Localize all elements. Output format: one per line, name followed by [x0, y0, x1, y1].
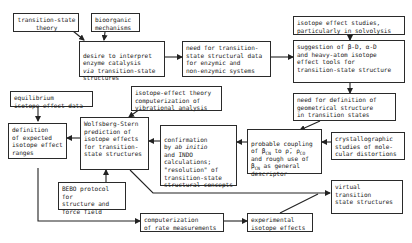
node-isotope-effect-studies: isotope effect studies, particularly in …: [293, 16, 405, 35]
node-crystallographic-studies: crystallographic studies of mole- cular …: [331, 132, 405, 160]
node-virtual-transition-structures: virtual transition state structures: [331, 180, 403, 214]
node-confirmation-ab-initio: confirmationby ab initioand INDOcalculat…: [160, 125, 237, 186]
edge-bioorganic-to-desire: [104, 32, 105, 40]
node-experimental-isotope-effects: experimental isotope effects: [247, 213, 313, 232]
node-bioorganic-mechanisms: bioorganic mechanisms: [91, 13, 140, 32]
node-computerization-rate: computerization of rate measurements: [140, 213, 224, 232]
node-desire-line1: desire to interpretenzyme catalysisvia t…: [83, 52, 155, 82]
edge-experimental-to-virtual: [280, 194, 318, 213]
node-isotope-effect-theory: isotope-effect theory computerization of…: [131, 86, 222, 111]
node-desire-to-interpret: desire to interpretenzyme catalysisvia t…: [79, 41, 165, 77]
edge-ts-theory-to-desire: [73, 31, 84, 40]
node-confirmation-text: confirmationby ab initioand INDOcalculat…: [164, 136, 233, 189]
node-need-definition-geometry: need for definition of geometrical struc…: [293, 93, 396, 121]
node-wolfsberg-stern-prediction: Wolfsberg-Stern prediction of isotope ef…: [80, 117, 149, 170]
node-need-structural-data: need for transition- state structural da…: [182, 41, 271, 77]
node-bebo-protocol: BEBO protocol for structure and force fi…: [58, 182, 126, 210]
node-definition-expected-ranges: definition of expected isotope effect ra…: [8, 123, 67, 159]
node-equilibrium-data: equilibrium isotope-effect data: [10, 91, 93, 107]
node-transition-state-theory: transition-state theory: [13, 13, 79, 32]
node-coupling-text: probable couplingof βCN to ρ̄, ρCOand ro…: [251, 140, 313, 177]
node-suggestion-isotope-tools: suggestion of β-D, α-D and heavy-atom is…: [293, 40, 405, 83]
flowchart-diagram: transition-state theory bioorganic mecha…: [0, 0, 412, 243]
node-probable-coupling: probable couplingof βCN to ρ̄, ρCOand ro…: [247, 129, 322, 174]
